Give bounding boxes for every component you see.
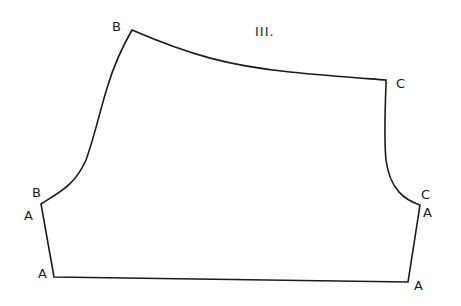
pattern-outline — [41, 30, 420, 282]
pattern-outline-svg: III. B C B A A C A A — [0, 0, 461, 306]
label-c-right: C — [421, 187, 430, 202]
label-a-left-upper: A — [24, 208, 33, 223]
figure-title: III. — [255, 24, 275, 39]
label-c-top: C — [396, 76, 405, 91]
label-a-left-lower: A — [38, 266, 47, 281]
pattern-diagram: III. B C B A A C A A — [0, 0, 461, 306]
label-b-top: B — [112, 19, 121, 34]
label-a-right-upper: A — [423, 205, 432, 220]
label-b-left: B — [32, 185, 41, 200]
label-a-right-lower: A — [414, 278, 423, 293]
